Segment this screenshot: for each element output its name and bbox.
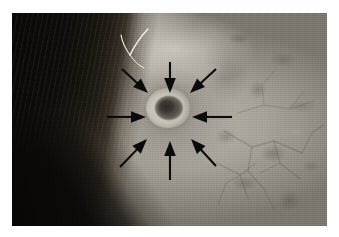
- figure-root: Close-up photograph of an ear showing a …: [0, 0, 339, 237]
- arrow-n: [164, 62, 176, 93]
- arrow-sw: [120, 139, 147, 167]
- arrow-nw: [122, 69, 148, 93]
- arrow-ne: [190, 69, 216, 93]
- arrow-s: [164, 141, 176, 180]
- arrow-annotation-overlay: [0, 0, 339, 237]
- arrow-se: [191, 139, 216, 166]
- arrow-e: [192, 111, 232, 123]
- arrow-w: [107, 111, 146, 123]
